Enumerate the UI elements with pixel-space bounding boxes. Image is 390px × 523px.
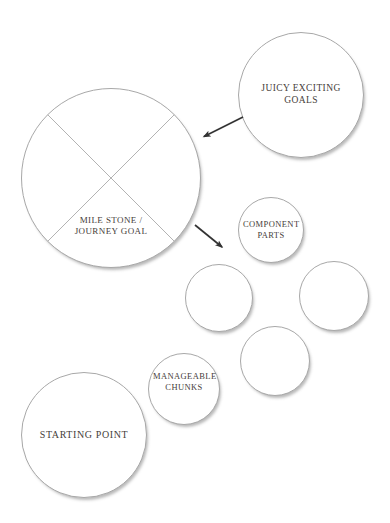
node-starting-point: STARTING POINT [21,372,147,498]
component-parts-label: COMPONENT PARTS [243,219,299,240]
node-juicy-exciting-goals: JUICY EXCITING GOALS [238,32,364,158]
node-unlabeled-circle-1 [185,264,253,332]
milestone-journey-goal-label: MILE STONE / JOURNEY GOAL [69,215,153,268]
node-milestone-journey-goal: MILE STONE / JOURNEY GOAL [21,88,201,268]
node-unlabeled-circle-2 [299,261,369,331]
manageable-chunks-label: MANAGEABLE CHUNKS [153,371,215,392]
goal-breakdown-diagram: MILE STONE / JOURNEY GOAL JUICY EXCITING… [0,0,390,523]
juicy-exciting-goals-label: JUICY EXCITING GOALS [245,83,357,107]
node-unlabeled-circle-3 [240,326,310,396]
node-component-parts: COMPONENT PARTS [238,197,304,263]
arrow-goals-to-milestone [204,117,243,137]
node-manageable-chunks: MANAGEABLE CHUNKS [148,353,220,425]
starting-point-label: STARTING POINT [29,429,139,442]
